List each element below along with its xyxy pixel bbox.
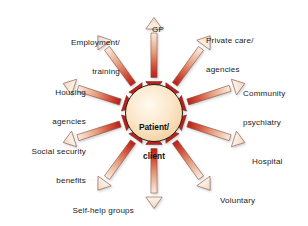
center-label: Patient/ client: [131, 104, 177, 181]
label-gp: GP: [146, 6, 170, 54]
label-gp-line-1: GP: [146, 25, 170, 35]
label-voluntary-organizations: Voluntary organizations: [220, 177, 292, 226]
label-employment-training-line-1: Employment/: [54, 38, 120, 48]
label-voluntary-organizations-line-1: Voluntary: [220, 196, 292, 206]
center-label-line-1: Patient/: [131, 123, 177, 133]
diagram-canvas: Patient/ client GP Private care/ agencie…: [0, 0, 308, 226]
label-community-psychiatry-line-2: psychiatry: [243, 118, 305, 128]
label-hospital-line-1: Hospital: [252, 157, 300, 167]
label-community-psychiatry-line-1: Community: [243, 89, 305, 99]
label-voluntary-organizations-line-2: organizations: [220, 225, 292, 226]
label-employment-training-line-2: training: [54, 67, 120, 77]
label-community-psychiatry: Community psychiatry: [243, 70, 305, 147]
label-social-work-line-1: Social work: [127, 225, 187, 226]
center-label-line-2: client: [131, 152, 177, 162]
label-social-security-benefits-line-2: benefits: [18, 176, 86, 186]
label-self-help-groups-line-1: Self-help groups: [56, 206, 134, 216]
label-private-care-agencies-line-1: Private care/: [206, 36, 272, 46]
label-social-security-benefits-line-1: Social security: [18, 147, 86, 157]
label-social-work: Social work: [127, 206, 187, 226]
label-employment-training: Employment/ training: [54, 19, 120, 96]
label-housing-agencies-line-2: agencies: [28, 117, 86, 127]
